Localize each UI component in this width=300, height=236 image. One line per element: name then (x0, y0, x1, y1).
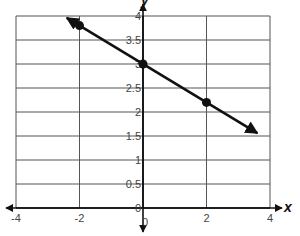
data-series (67, 18, 257, 133)
axes (6, 4, 282, 232)
y-tick-label: 1.5 (126, 130, 141, 142)
y-tick-label: 3.5 (126, 34, 141, 46)
y-tick-label: 2 (135, 106, 141, 118)
line-chart: -4-202400.511.522.533.54 x y (0, 0, 300, 236)
x-tick-label: 0 (142, 216, 148, 228)
x-tick-label: -4 (11, 212, 21, 224)
data-line (67, 18, 257, 133)
data-point (75, 21, 84, 30)
x-tick-label: -2 (75, 212, 85, 224)
data-point (139, 60, 148, 69)
y-tick-label: 0 (135, 202, 141, 214)
y-tick-label: 1 (135, 154, 141, 166)
y-tick-label: 0.5 (126, 178, 141, 190)
y-tick-label: 4 (135, 10, 141, 22)
y-axis-label: y (140, 0, 150, 8)
x-tick-label: 4 (267, 212, 273, 224)
x-tick-label: 2 (203, 212, 209, 224)
x-axis-label: x (283, 199, 293, 215)
y-tick-label: 2.5 (126, 82, 141, 94)
data-point (202, 98, 211, 107)
